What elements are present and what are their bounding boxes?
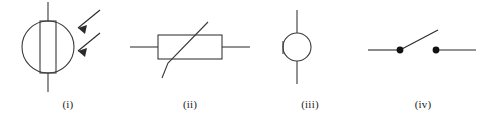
- switch-lever: [400, 30, 438, 50]
- light-dependent-resistor-symbol: [8, 0, 128, 96]
- lamp-circle-outline: [283, 33, 311, 61]
- symbol-label-iv: (iv): [364, 98, 482, 110]
- switch-right-terminal-dot: [433, 47, 440, 54]
- symbol-item-iii: (iii): [256, 0, 364, 126]
- open-switch-symbol: [364, 0, 482, 96]
- symbol-item-ii: (ii): [128, 0, 252, 126]
- thermistor-diagonal-line: [162, 22, 208, 78]
- thermistor-symbol: [128, 0, 252, 96]
- symbol-item-iv: (iv): [364, 0, 482, 126]
- ldr-arrow-1-shaft: [78, 10, 100, 28]
- circuit-symbols-figure: (i) (ii) (iii): [0, 0, 487, 126]
- symbol-item-i: (i): [8, 0, 128, 126]
- thermistor-body: [158, 35, 222, 59]
- ldr-resistor-body: [40, 21, 56, 73]
- symbol-label-ii: (ii): [128, 98, 252, 110]
- lamp-symbol: [256, 0, 364, 96]
- ldr-arrow-2-shaft: [78, 33, 100, 51]
- switch-left-terminal-dot: [397, 47, 404, 54]
- symbol-label-iii: (iii): [256, 98, 364, 110]
- ldr-circle-outline: [22, 21, 74, 73]
- symbol-label-i: (i): [8, 98, 128, 110]
